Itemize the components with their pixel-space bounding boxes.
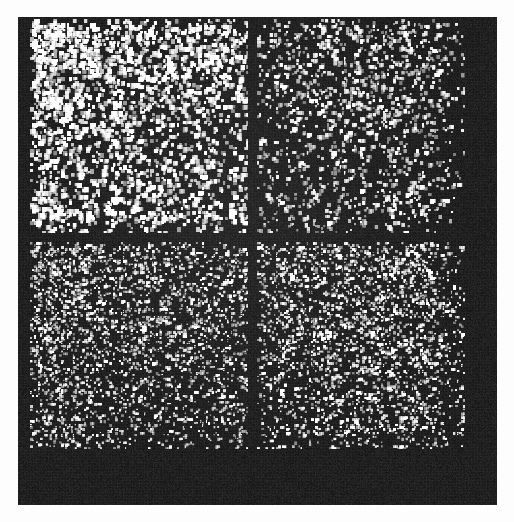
figure-page (0, 0, 514, 522)
sparse-matrix-canvas (18, 17, 497, 505)
spy-plot-panel (18, 17, 497, 505)
